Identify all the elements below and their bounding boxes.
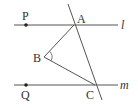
point-q-dot [24,83,28,87]
angle-mark-b [50,51,52,61]
label-p: P [22,9,29,23]
label-b: B [33,51,41,65]
label-q: Q [21,88,30,102]
segment-ab [44,25,74,57]
label-line-l: l [121,18,125,32]
point-p-dot [24,23,28,27]
geometry-diagram: P A l B Q C m [0,0,138,108]
label-a: A [77,12,86,26]
segment-bc [44,57,95,85]
label-c: C [86,88,94,102]
label-line-m: m [120,78,129,92]
